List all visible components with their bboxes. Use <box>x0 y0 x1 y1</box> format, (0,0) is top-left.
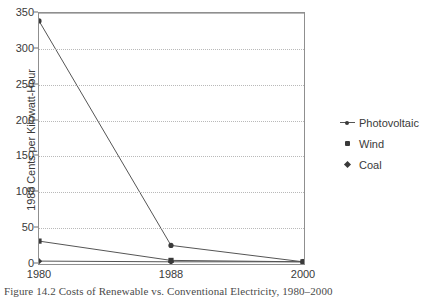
y-tick-mark <box>34 227 38 228</box>
y-tick-label: 150 <box>2 149 34 161</box>
y-tick-label: 300 <box>2 42 34 54</box>
x-tick-label: 2000 <box>291 268 315 280</box>
legend-item-photovoltaic[interactable]: Photovoltaic <box>340 112 425 133</box>
legend-item-coal[interactable]: Coal <box>340 154 425 175</box>
legend-label: Photovoltaic <box>359 117 419 129</box>
legend-item-wind[interactable]: Wind <box>340 133 425 154</box>
legend-marker-icon <box>340 159 355 170</box>
y-tick-mark <box>34 47 38 48</box>
legend-marker-icon <box>340 138 355 149</box>
x-tick-label: 1988 <box>159 268 183 280</box>
y-tick-label: 350 <box>2 6 34 18</box>
legend-label: Coal <box>359 159 382 171</box>
y-tick-mark <box>34 119 38 120</box>
y-tick-label: 200 <box>2 114 34 126</box>
x-tick-label: 1980 <box>27 268 51 280</box>
chart-legend: PhotovoltaicWindCoal <box>340 112 425 175</box>
legend-label: Wind <box>359 138 384 150</box>
y-tick-mark <box>34 155 38 156</box>
y-tick-label: 250 <box>2 78 34 90</box>
figure-caption: Figure 14.2 Costs of Renewable vs. Conve… <box>4 285 424 297</box>
y-tick-mark <box>34 263 38 264</box>
y-tick-mark <box>34 83 38 84</box>
y-tick-label: 100 <box>2 185 34 197</box>
x-axis-ticks: 198019882000 <box>0 268 425 284</box>
y-tick-label: 50 <box>2 221 34 233</box>
legend-marker-icon <box>340 117 355 128</box>
y-tick-mark <box>34 191 38 192</box>
y-tick-mark <box>34 12 38 13</box>
